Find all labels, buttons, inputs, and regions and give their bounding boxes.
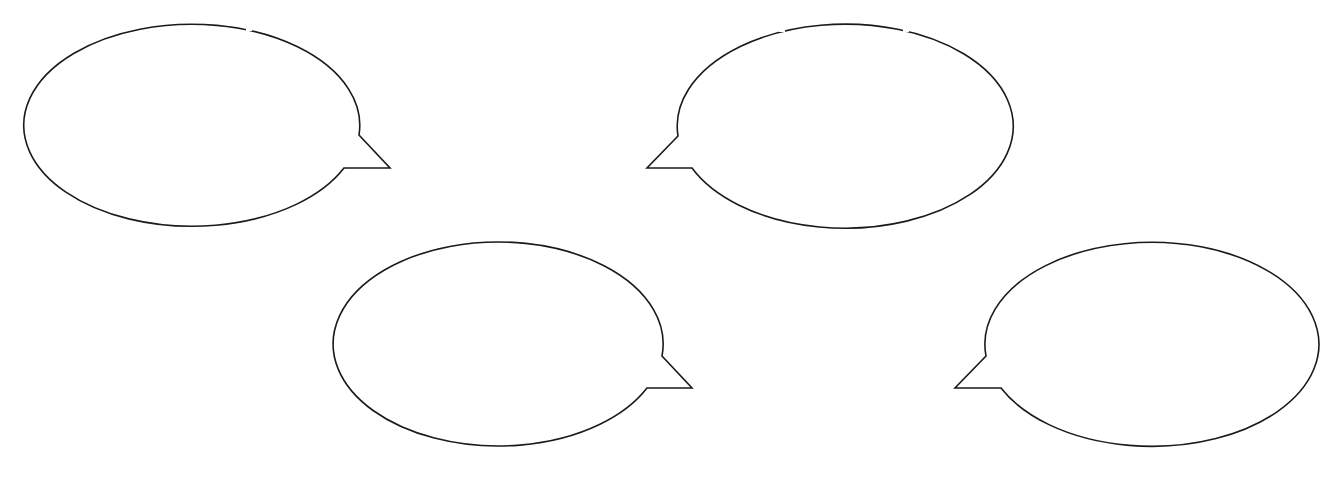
bubble-3-outline	[333, 242, 692, 446]
bubble-4-outline	[955, 242, 1319, 446]
speech-bubble-1	[24, 24, 390, 226]
bubble-2-stroke-gap	[903, 26, 909, 32]
bubble-1-stroke-gap	[118, 25, 124, 31]
bubble-2-outline	[647, 24, 1013, 228]
bubble-1-stroke-gap	[246, 25, 252, 31]
bubble-1-outline	[24, 24, 390, 226]
speech-bubble-4	[955, 242, 1319, 446]
speech-bubble-canvas	[0, 0, 1344, 479]
speech-bubble-2	[647, 24, 1013, 228]
speech-bubble-3	[333, 242, 692, 446]
bubble-2-stroke-gap	[779, 26, 785, 32]
